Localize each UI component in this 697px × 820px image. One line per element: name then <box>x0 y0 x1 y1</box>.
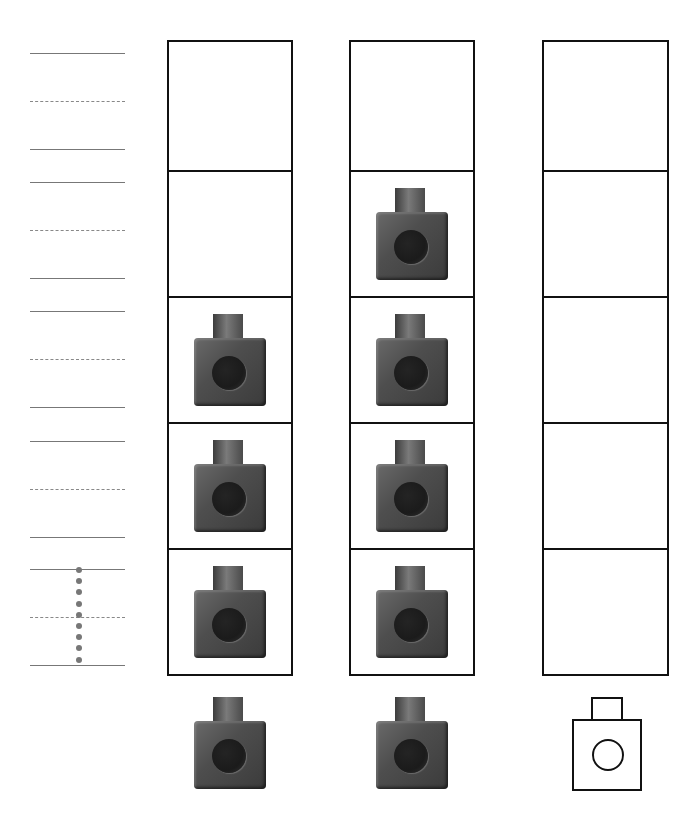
top-line <box>30 182 125 183</box>
unifix-cube-icon <box>194 440 266 530</box>
base-line <box>30 278 125 279</box>
mid-line <box>30 101 125 102</box>
cell-empty <box>351 42 473 170</box>
base-line <box>30 149 125 150</box>
top-line <box>30 441 125 442</box>
mid-line <box>30 359 125 360</box>
base-line <box>30 537 125 538</box>
writing-lines-5 <box>30 569 125 665</box>
ten-frame-column-2 <box>349 40 475 676</box>
mid-line <box>30 230 125 231</box>
cell-empty <box>169 170 291 296</box>
cell-with-cube <box>351 296 473 422</box>
ten-frame-column-3 <box>542 40 669 676</box>
unifix-cube-icon <box>376 314 448 404</box>
ten-frame-column-1 <box>167 40 293 676</box>
unifix-cube-icon-below-column-1 <box>194 697 266 787</box>
writing-lines-2 <box>30 182 125 278</box>
writing-lines-1 <box>30 53 125 149</box>
unifix-cube-icon-below-column-2 <box>376 697 448 787</box>
cell-with-cube <box>351 170 473 296</box>
unifix-cube-icon <box>376 188 448 278</box>
outline-cube-icon-below-column-3 <box>572 697 642 792</box>
dotted-trace-digit-one <box>76 567 82 668</box>
cell-with-cube <box>351 422 473 548</box>
writing-lines-4 <box>30 441 125 537</box>
cell-empty <box>169 42 291 170</box>
cell-empty <box>544 548 667 674</box>
cell-with-cube <box>169 548 291 674</box>
mid-line <box>30 489 125 490</box>
cell-empty <box>544 422 667 548</box>
unifix-cube-icon <box>194 314 266 404</box>
unifix-cube-icon <box>376 440 448 530</box>
cell-empty <box>544 296 667 422</box>
base-line <box>30 407 125 408</box>
unifix-cube-icon <box>194 566 266 656</box>
cell-with-cube <box>169 296 291 422</box>
top-line <box>30 311 125 312</box>
cell-with-cube <box>169 422 291 548</box>
cell-empty <box>544 170 667 296</box>
unifix-cube-icon <box>376 566 448 656</box>
cell-empty <box>544 42 667 170</box>
top-line <box>30 53 125 54</box>
cell-with-cube <box>351 548 473 674</box>
writing-lines-3 <box>30 311 125 407</box>
